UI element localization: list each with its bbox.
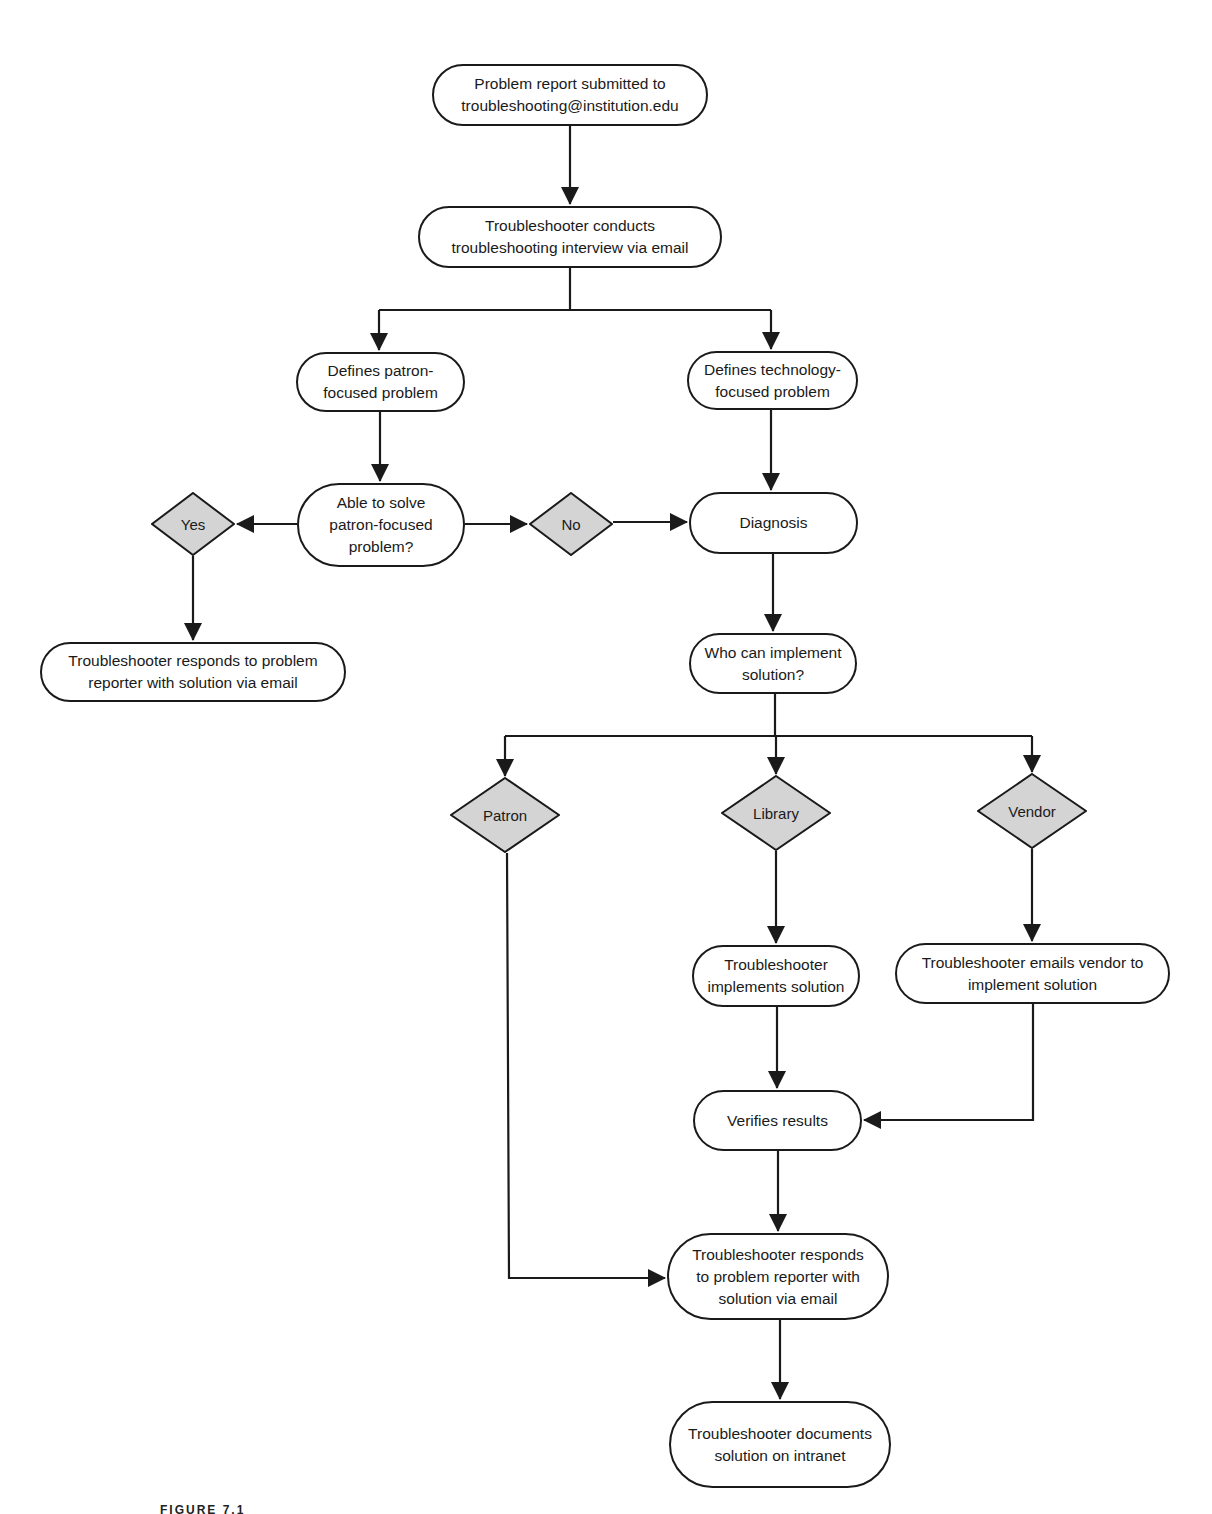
node-label: Diagnosis [739,512,807,534]
decision-library: Library [721,775,831,851]
node-implements-solution: Troubleshooter implements solution [692,945,860,1007]
node-label: Troubleshooter responds to problem repor… [68,650,317,694]
node-label: Troubleshooter implements solution [708,954,845,998]
node-responds-left: Troubleshooter responds to problem repor… [40,642,346,702]
figure-caption: FIGURE 7.1 [160,1503,245,1514]
node-emails-vendor: Troubleshooter emails vendor to implemen… [895,943,1170,1004]
node-verifies-results: Verifies results [693,1090,862,1151]
decision-label: Yes [151,492,235,556]
decision-label: Patron [450,777,560,853]
decision-label: Library [721,775,831,851]
node-able-to-solve: Able to solve patron-focused problem? [297,483,465,567]
node-label: Troubleshooter responds to problem repor… [692,1244,864,1310]
node-who-can-implement: Who can implement solution? [689,633,857,694]
node-label: Defines technology- focused problem [704,359,841,403]
node-label: Who can implement solution? [705,642,842,686]
node-label: Troubleshooter emails vendor to implemen… [922,952,1144,996]
node-label: Defines patron- focused problem [323,360,438,404]
node-label: Able to solve patron-focused problem? [329,492,432,558]
node-documents-solution: Troubleshooter documents solution on int… [669,1401,891,1488]
node-label: Problem report submitted to troubleshoot… [461,73,678,117]
node-label: Troubleshooter documents solution on int… [688,1423,872,1467]
node-label: Troubleshooter conducts troubleshooting … [452,215,689,259]
node-responds-bottom: Troubleshooter responds to problem repor… [667,1233,889,1320]
node-diagnosis: Diagnosis [689,492,858,554]
node-patron-focused-problem: Defines patron- focused problem [296,352,465,412]
node-report-submitted: Problem report submitted to troubleshoot… [432,64,708,126]
decision-label: Vendor [977,773,1087,849]
decision-no: No [529,492,613,556]
decision-label: No [529,492,613,556]
decision-patron: Patron [450,777,560,853]
decision-vendor: Vendor [977,773,1087,849]
decision-yes: Yes [151,492,235,556]
flowchart-canvas: Problem report submitted to troubleshoot… [0,0,1212,1514]
node-interview: Troubleshooter conducts troubleshooting … [418,206,722,268]
node-technology-focused-problem: Defines technology- focused problem [687,351,858,410]
node-label: Verifies results [727,1110,828,1132]
